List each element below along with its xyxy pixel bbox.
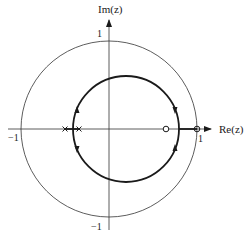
locus-arrow-upper-left [75, 106, 80, 113]
imag-axis-label: Im(z) [98, 3, 123, 16]
zero-marker [163, 126, 169, 132]
y-tick-neg-one: −1 [91, 221, 102, 232]
root-locus-diagram: Im(z) Re(z) 1 −1 −1 1 [0, 0, 247, 237]
x-tick-pos-one: 1 [198, 133, 203, 144]
real-axis-label: Re(z) [219, 123, 244, 136]
y-tick-pos-one: 1 [97, 28, 102, 39]
x-tick-neg-one: −1 [8, 132, 19, 143]
